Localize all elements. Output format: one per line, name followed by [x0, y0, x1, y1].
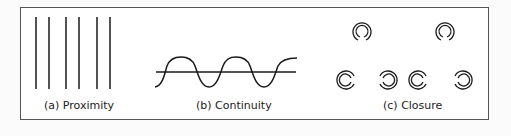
caption-closure: (c) Closure — [383, 99, 442, 112]
closure-shapes — [337, 23, 472, 89]
continuity-wave — [155, 57, 297, 87]
gestalt-diagram — [0, 0, 511, 136]
proximity-lines — [36, 17, 110, 89]
caption-continuity: (b) Continuity — [196, 99, 272, 112]
caption-proximity: (a) Proximity — [44, 99, 114, 112]
